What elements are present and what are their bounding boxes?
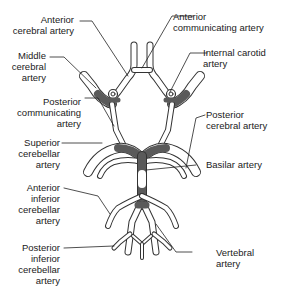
label-posterior-cerebral-artery: Posterior cerebral artery: [206, 109, 267, 131]
label-internal-carotid-artery: Internal carotid artery: [203, 47, 266, 69]
label-posterior-inferior-cerebellar-artery: Posterior inferior cerebellar artery: [18, 242, 60, 286]
label-anterior-communicating-artery: Anterior communicating artery: [173, 11, 264, 33]
posterior-communicating-arteries: [112, 104, 172, 146]
label-anterior-cerebral-artery: Anterior cerebral artery: [13, 14, 74, 36]
leader-lines: [50, 16, 207, 252]
label-basilar-artery: Basilar artery: [206, 159, 262, 170]
label-posterior-communicating-artery: Posterior communicating artery: [17, 96, 81, 129]
label-anterior-inferior-cerebellar-artery: Anterior inferior cerebellar artery: [18, 182, 60, 226]
label-middle-cerebral-artery: Middle cerebral artery: [12, 50, 46, 83]
middle-cerebral-arteries: [84, 76, 200, 104]
label-superior-cerebellar-artery: Superior cerebellar artery: [18, 137, 60, 170]
anterior-cerebral-arteries: [108, 45, 176, 104]
label-vertebral-artery: Vertebral artery: [216, 247, 254, 269]
